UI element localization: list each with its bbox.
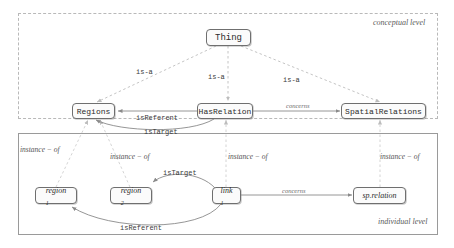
- node-hasrelation[interactable]: HasRelation: [197, 103, 253, 119]
- label-isa-regions: is-a: [136, 68, 153, 76]
- label-instance-of-sprelation: instance − of: [380, 152, 420, 161]
- diagram-canvas: Thing Regions HasRelation SpatialRelatio…: [0, 0, 454, 248]
- label-isa-hasrelation: is-a: [208, 73, 225, 81]
- node-spatialrelations-label: SpatialRelations: [345, 107, 422, 116]
- label-isreferent-individual: isReferent: [120, 224, 162, 232]
- label-isa-spatialrelations: is-a: [283, 76, 300, 84]
- node-region1-label: region: [46, 186, 67, 195]
- node-sprelation[interactable]: sp.relation: [353, 187, 406, 204]
- node-link1-label: link: [221, 186, 233, 195]
- label-isreferent-conceptual: isReferent: [136, 114, 178, 122]
- label-concerns-individual: concerns: [282, 187, 305, 194]
- label-instance-of-link1: instance − of: [228, 152, 268, 161]
- node-region1[interactable]: region1: [35, 187, 77, 204]
- caption-conceptual-level: conceptual level: [373, 18, 425, 27]
- node-link1[interactable]: link1: [212, 187, 241, 204]
- node-region1-subscript: 1: [46, 199, 49, 205]
- node-region2[interactable]: region2: [110, 187, 152, 204]
- label-instance-of-region1: instance − of: [20, 145, 60, 154]
- edge-isa-regions: [97, 46, 216, 102]
- node-regions[interactable]: Regions: [72, 103, 115, 119]
- caption-individual-level: individual level: [378, 217, 428, 226]
- label-istarget-individual: isTarget: [163, 169, 197, 177]
- node-spatialrelations[interactable]: SpatialRelations: [341, 103, 426, 119]
- node-hasrelation-label: HasRelation: [199, 107, 252, 116]
- node-link1-subscript: 1: [221, 199, 224, 205]
- node-regions-label: Regions: [77, 107, 111, 116]
- edge-isa-spatialrelations: [241, 46, 380, 102]
- node-region2-subscript: 2: [121, 199, 124, 205]
- edge-isreferent-individual: [72, 204, 221, 225]
- node-thing[interactable]: Thing: [206, 29, 251, 46]
- node-thing-label: Thing: [215, 33, 242, 43]
- edge-instance-of-region1: [56, 120, 88, 187]
- node-region2-label: region: [121, 186, 142, 195]
- label-istarget-conceptual: isTarget: [144, 128, 178, 136]
- label-concerns-conceptual: concerns: [286, 102, 309, 109]
- node-sprelation-label: sp.relation: [362, 191, 396, 200]
- label-instance-of-region2: instance − of: [110, 152, 150, 161]
